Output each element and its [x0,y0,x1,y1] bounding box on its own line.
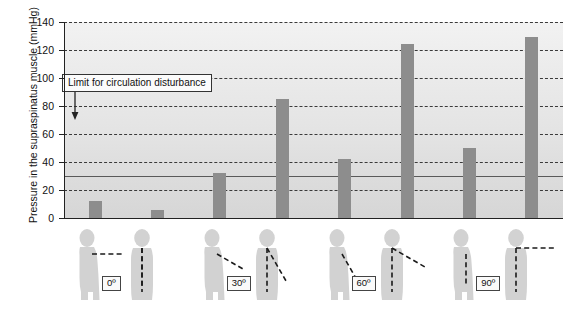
angle-label: 60º [352,276,376,291]
bar [276,99,289,218]
pictogram-front-view [372,228,436,302]
y-tick-label: 80 [22,100,54,112]
bar [338,159,351,218]
pictogram-group: 60º [314,228,439,314]
x-axis [64,218,563,219]
y-axis [64,22,65,218]
y-tick-label: 140 [22,16,54,28]
bar [213,173,226,218]
pictogram-front-view [496,228,560,302]
y-tick [59,190,64,191]
pictogram-front-view [122,228,186,302]
y-tick [59,162,64,163]
plot-area: Limit for circulation disturbance [64,22,563,218]
pictogram-strip: 0º 30º 60º 90º [64,228,563,314]
gridline [64,50,563,51]
bar [463,148,476,218]
gridline [64,134,563,135]
y-tick [59,106,64,107]
pictogram-group: 30º [189,228,314,314]
y-tick-label: 120 [22,44,54,56]
chart-figure: Pressure in the supraspinatus muscle (mm… [0,0,579,325]
limit-annotation-box: Limit for circulation disturbance [62,74,212,92]
angle-label: 0º [102,276,121,291]
gridline [64,22,563,23]
limit-arrow-icon [70,92,80,120]
bar [89,201,102,218]
gridline [64,190,563,191]
y-tick-label: 100 [22,72,54,84]
y-tick-label: 0 [22,212,54,224]
pictogram-group: 0º [64,228,189,314]
gridline [64,106,563,107]
y-tick-label: 20 [22,184,54,196]
bar [525,37,538,218]
pictogram-front-view [247,228,311,302]
y-tick [59,50,64,51]
gridline [64,162,563,163]
bar [401,44,414,218]
limit-reference-line [64,176,563,177]
y-tick-label: 60 [22,128,54,140]
pictogram-group: 90º [438,228,563,314]
y-tick-label: 40 [22,156,54,168]
y-tick [59,78,64,79]
bar [151,210,164,218]
y-tick [59,22,64,23]
plot-surface [64,22,563,218]
y-tick [59,134,64,135]
angle-label: 90º [476,276,500,291]
angle-label: 30º [227,276,251,291]
y-tick [59,218,64,219]
